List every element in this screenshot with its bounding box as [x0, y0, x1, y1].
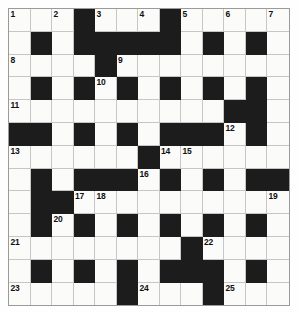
crossword-open-cell[interactable]: 8 — [9, 55, 31, 78]
crossword-open-cell[interactable] — [181, 169, 203, 192]
crossword-open-cell[interactable] — [31, 146, 53, 169]
crossword-open-cell[interactable]: 11 — [9, 100, 31, 123]
crossword-open-cell[interactable] — [52, 283, 74, 306]
crossword-open-cell[interactable] — [52, 32, 74, 55]
crossword-open-cell[interactable] — [52, 169, 74, 192]
crossword-open-cell[interactable] — [117, 100, 139, 123]
crossword-open-cell[interactable]: 18 — [95, 191, 117, 214]
crossword-open-cell[interactable] — [267, 237, 289, 260]
crossword-open-cell[interactable] — [31, 237, 53, 260]
crossword-open-cell[interactable] — [74, 237, 96, 260]
crossword-open-cell[interactable]: 5 — [181, 9, 203, 32]
crossword-open-cell[interactable] — [224, 237, 246, 260]
crossword-open-cell[interactable] — [74, 283, 96, 306]
crossword-open-cell[interactable] — [160, 283, 182, 306]
crossword-open-cell[interactable] — [9, 32, 31, 55]
crossword-open-cell[interactable]: 6 — [224, 9, 246, 32]
crossword-open-cell[interactable]: 1 — [9, 9, 31, 32]
crossword-open-cell[interactable] — [203, 9, 225, 32]
crossword-open-cell[interactable]: 15 — [181, 146, 203, 169]
crossword-open-cell[interactable] — [95, 214, 117, 237]
crossword-open-cell[interactable]: 21 — [9, 237, 31, 260]
crossword-open-cell[interactable] — [181, 55, 203, 78]
crossword-open-cell[interactable] — [181, 32, 203, 55]
crossword-open-cell[interactable]: 14 — [160, 146, 182, 169]
crossword-open-cell[interactable] — [138, 191, 160, 214]
crossword-open-cell[interactable] — [31, 283, 53, 306]
crossword-open-cell[interactable] — [138, 55, 160, 78]
crossword-open-cell[interactable] — [160, 100, 182, 123]
crossword-open-cell[interactable] — [224, 32, 246, 55]
crossword-open-cell[interactable]: 22 — [203, 237, 225, 260]
crossword-open-cell[interactable]: 20 — [52, 214, 74, 237]
crossword-open-cell[interactable] — [9, 191, 31, 214]
crossword-open-cell[interactable] — [224, 169, 246, 192]
crossword-open-cell[interactable] — [31, 100, 53, 123]
crossword-open-cell[interactable] — [224, 214, 246, 237]
crossword-open-cell[interactable] — [117, 191, 139, 214]
crossword-open-cell[interactable] — [52, 123, 74, 146]
crossword-open-cell[interactable]: 25 — [224, 283, 246, 306]
crossword-open-cell[interactable] — [74, 55, 96, 78]
crossword-open-cell[interactable] — [181, 191, 203, 214]
crossword-open-cell[interactable] — [203, 100, 225, 123]
crossword-open-cell[interactable] — [181, 77, 203, 100]
crossword-open-cell[interactable] — [95, 237, 117, 260]
crossword-open-cell[interactable]: 16 — [138, 169, 160, 192]
crossword-open-cell[interactable] — [267, 77, 289, 100]
crossword-open-cell[interactable] — [203, 55, 225, 78]
crossword-open-cell[interactable] — [138, 100, 160, 123]
crossword-open-cell[interactable] — [246, 237, 268, 260]
crossword-open-cell[interactable] — [267, 283, 289, 306]
crossword-open-cell[interactable] — [52, 55, 74, 78]
crossword-open-cell[interactable] — [267, 32, 289, 55]
crossword-open-cell[interactable] — [181, 283, 203, 306]
crossword-open-cell[interactable] — [31, 55, 53, 78]
crossword-open-cell[interactable] — [9, 169, 31, 192]
crossword-open-cell[interactable]: 4 — [138, 9, 160, 32]
crossword-open-cell[interactable]: 12 — [224, 123, 246, 146]
crossword-open-cell[interactable]: 10 — [95, 77, 117, 100]
crossword-open-cell[interactable] — [160, 55, 182, 78]
crossword-open-cell[interactable] — [160, 191, 182, 214]
crossword-open-cell[interactable] — [95, 100, 117, 123]
crossword-open-cell[interactable]: 3 — [95, 9, 117, 32]
crossword-open-cell[interactable] — [203, 146, 225, 169]
crossword-open-cell[interactable] — [95, 123, 117, 146]
crossword-open-cell[interactable] — [52, 237, 74, 260]
crossword-open-cell[interactable] — [224, 191, 246, 214]
crossword-open-cell[interactable]: 7 — [267, 9, 289, 32]
crossword-open-cell[interactable] — [246, 146, 268, 169]
crossword-open-cell[interactable] — [74, 100, 96, 123]
crossword-open-cell[interactable]: 23 — [9, 283, 31, 306]
crossword-open-cell[interactable] — [267, 55, 289, 78]
crossword-open-cell[interactable] — [117, 237, 139, 260]
crossword-open-cell[interactable] — [117, 146, 139, 169]
crossword-grid[interactable]: 1234567891011121314151617181920212223242… — [8, 8, 290, 306]
crossword-open-cell[interactable] — [224, 55, 246, 78]
crossword-open-cell[interactable] — [138, 237, 160, 260]
crossword-open-cell[interactable] — [224, 260, 246, 283]
crossword-open-cell[interactable] — [52, 100, 74, 123]
crossword-open-cell[interactable] — [224, 146, 246, 169]
crossword-open-cell[interactable] — [267, 260, 289, 283]
crossword-open-cell[interactable] — [31, 9, 53, 32]
crossword-open-cell[interactable] — [138, 123, 160, 146]
crossword-open-cell[interactable] — [160, 237, 182, 260]
crossword-open-cell[interactable]: 13 — [9, 146, 31, 169]
crossword-open-cell[interactable] — [95, 260, 117, 283]
crossword-open-cell[interactable] — [267, 214, 289, 237]
crossword-open-cell[interactable] — [246, 191, 268, 214]
crossword-open-cell[interactable] — [52, 77, 74, 100]
crossword-open-cell[interactable] — [117, 9, 139, 32]
crossword-open-cell[interactable] — [9, 260, 31, 283]
crossword-open-cell[interactable] — [52, 146, 74, 169]
crossword-open-cell[interactable] — [138, 77, 160, 100]
crossword-open-cell[interactable]: 24 — [138, 283, 160, 306]
crossword-open-cell[interactable] — [267, 100, 289, 123]
crossword-open-cell[interactable] — [52, 260, 74, 283]
crossword-open-cell[interactable]: 2 — [52, 9, 74, 32]
crossword-open-cell[interactable]: 17 — [74, 191, 96, 214]
crossword-open-cell[interactable] — [246, 55, 268, 78]
crossword-open-cell[interactable] — [138, 214, 160, 237]
